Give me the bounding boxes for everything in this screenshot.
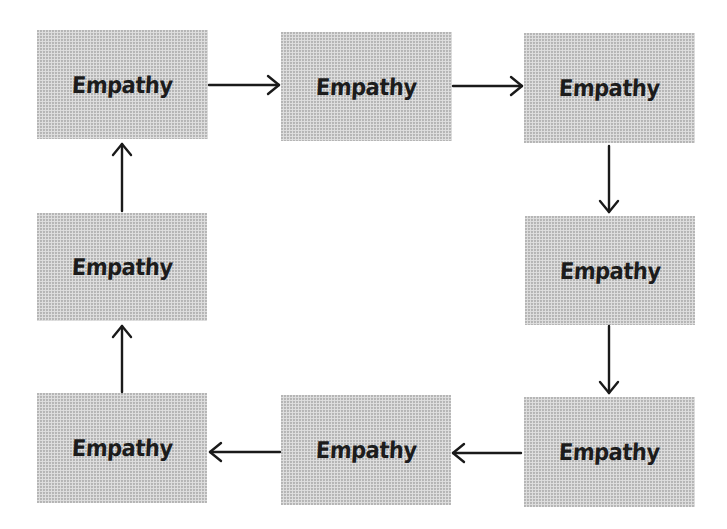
node-bottom-middle: Empathy xyxy=(281,395,451,505)
arrow-down-icon xyxy=(600,146,618,212)
node-middle-left: Empathy xyxy=(37,213,207,321)
node-bottom-right: Empathy xyxy=(524,397,695,507)
node-top-middle: Empathy xyxy=(281,32,452,141)
node-label: Empathy xyxy=(315,73,417,99)
node-bottom-left: Empathy xyxy=(37,393,207,503)
node-label: Empathy xyxy=(558,439,660,465)
node-top-right: Empathy xyxy=(524,33,695,143)
arrow-right-icon xyxy=(209,76,279,94)
cycle-diagram: Empathy Empathy Empathy Empathy Empathy … xyxy=(0,0,727,529)
node-label: Empathy xyxy=(559,257,661,283)
arrow-up-icon xyxy=(113,326,131,392)
arrow-left-icon xyxy=(210,443,280,461)
node-label: Empathy xyxy=(315,437,417,463)
node-label: Empathy xyxy=(71,254,173,280)
node-label: Empathy xyxy=(558,75,660,101)
node-label: Empathy xyxy=(71,435,173,461)
node-top-left: Empathy xyxy=(37,30,208,139)
arrow-left-icon xyxy=(453,444,521,462)
arrow-down-icon xyxy=(600,326,618,393)
arrow-right-icon xyxy=(453,77,522,95)
arrow-up-icon xyxy=(113,144,131,211)
node-label: Empathy xyxy=(71,71,173,97)
node-middle-right: Empathy xyxy=(525,216,695,325)
